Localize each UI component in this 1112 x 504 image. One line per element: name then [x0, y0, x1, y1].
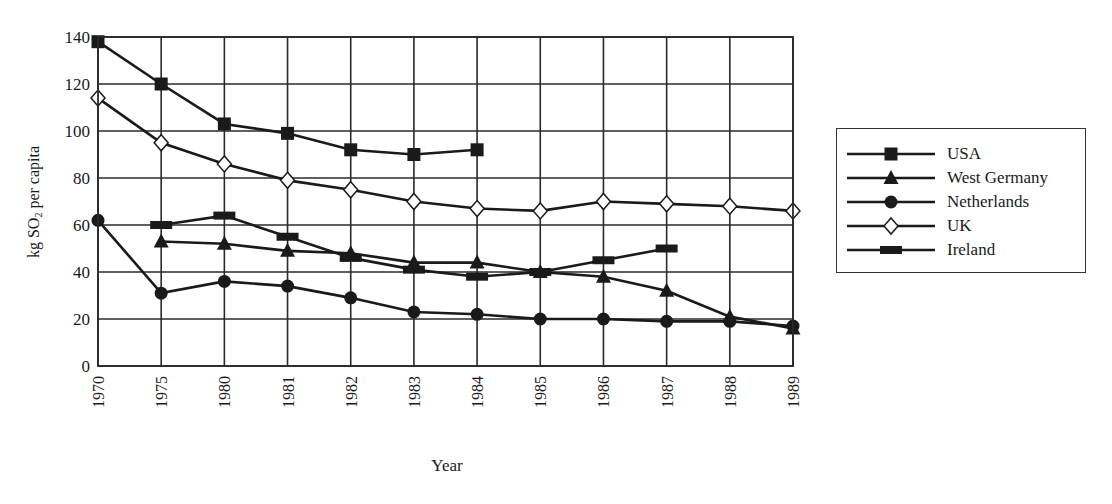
- y-tick-label: 0: [82, 357, 91, 376]
- diamond-marker-icon: [845, 214, 937, 238]
- x-tick-label: 1975: [153, 376, 170, 408]
- legend-item-ireland: Ireland: [837, 238, 1085, 262]
- square-marker-icon: [845, 142, 937, 166]
- y-tick-label: 140: [65, 28, 91, 47]
- legend-item-netherlands: Netherlands: [837, 190, 1085, 214]
- y-tick-label: 100: [65, 122, 91, 141]
- line-chart: 0204060801001201401970197519801981198219…: [0, 0, 1112, 504]
- legend-item-west-germany: West Germany: [837, 166, 1085, 190]
- y-axis-title-prefix: kg SO: [25, 218, 42, 258]
- y-tick-label: 60: [73, 216, 90, 235]
- x-tick-label: 1987: [659, 376, 676, 408]
- x-tick-label: 1984: [469, 376, 486, 408]
- series-uk: [91, 90, 800, 219]
- y-axis-title: kg SO2 per capita: [25, 146, 44, 258]
- x-tick-label: 1989: [785, 376, 802, 408]
- legend-label: UK: [947, 216, 972, 236]
- x-tick-label: 1970: [90, 376, 107, 408]
- legend-label: Ireland: [947, 240, 995, 260]
- x-axis-title: Year: [431, 456, 462, 476]
- legend: USA West Germany Netherlands UK Ireland: [836, 128, 1086, 273]
- x-tick-label: 1985: [532, 376, 549, 408]
- circle-marker-icon: [845, 190, 937, 214]
- x-tick-label: 1980: [216, 376, 233, 408]
- legend-label: West Germany: [947, 168, 1048, 188]
- x-tick-label: 1982: [343, 376, 360, 408]
- y-tick-label: 40: [73, 263, 90, 282]
- legend-label: USA: [947, 144, 981, 164]
- x-tick-label: 1988: [722, 376, 739, 408]
- y-axis-title-subscript: 2: [33, 213, 44, 218]
- x-tick-label: 1983: [406, 376, 423, 408]
- legend-label: Netherlands: [947, 192, 1029, 212]
- y-tick-label: 120: [65, 75, 91, 94]
- y-tick-label: 80: [73, 169, 90, 188]
- legend-item-usa: USA: [837, 142, 1085, 166]
- x-tick-label: 1986: [595, 376, 612, 408]
- gridlines: [98, 37, 793, 366]
- plot-border: [98, 37, 793, 366]
- bar-marker-icon: [845, 238, 937, 262]
- triangle-marker-icon: [845, 166, 937, 190]
- x-tick-label: 1981: [280, 376, 297, 408]
- y-tick-label: 20: [73, 310, 90, 329]
- y-axis-title-suffix: per capita: [25, 146, 42, 213]
- legend-item-uk: UK: [837, 214, 1085, 238]
